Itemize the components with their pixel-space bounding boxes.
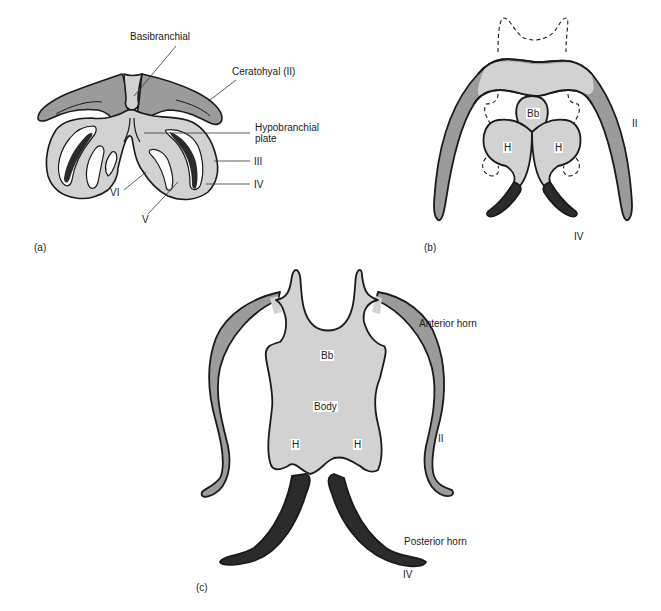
- tag-h-left-panel-c: H: [291, 439, 300, 450]
- label-arch-v: V: [142, 214, 149, 226]
- ceratobranchial-left: [487, 182, 521, 217]
- label-basibranchial: Basibranchial: [130, 31, 190, 43]
- anterior-horn-left: [202, 292, 280, 497]
- label-arch-vi: VI: [110, 187, 119, 199]
- label-arch-ii-panel-b: II: [632, 118, 638, 130]
- panel-c-illustration: [202, 270, 453, 566]
- posterior-horn-left: [220, 474, 310, 565]
- label-arch-iii: III: [254, 156, 262, 168]
- panel-b-illustration: [434, 18, 632, 220]
- hyoid-body: [266, 270, 386, 474]
- label-anterior-horn: Anterior horn: [419, 318, 477, 330]
- tag-bb-panel-b: Bb: [526, 108, 540, 119]
- label-ceratohyal: Ceratohyal (II): [232, 66, 295, 78]
- label-arch-iv-panel-b: IV: [574, 231, 583, 243]
- tag-body-panel-c: Body: [313, 401, 338, 412]
- hyoid-diagram-canvas: [0, 0, 661, 611]
- label-arch-iv-panel-c: IV: [403, 569, 412, 581]
- tag-bb-panel-c: Bb: [320, 350, 334, 361]
- tag-h-right-panel-c: H: [353, 439, 362, 450]
- panel-a-caption: (a): [34, 242, 46, 253]
- ceratobranchial-right: [543, 182, 577, 217]
- tag-h-left-panel-b: H: [503, 142, 512, 153]
- panel-b-caption: (b): [424, 242, 436, 253]
- label-hypobranchial-line1: Hypobranchial: [255, 122, 319, 134]
- panel-a-illustration: [38, 74, 222, 199]
- label-arch-ii-panel-c: II: [438, 433, 444, 445]
- tag-h-right-panel-b: H: [554, 142, 563, 153]
- posterior-horn-right: [329, 474, 427, 566]
- label-posterior-horn: Posterior horn: [404, 536, 467, 548]
- label-hypobranchial-line2: plate: [255, 133, 277, 145]
- panel-c-caption: (c): [196, 582, 208, 593]
- label-arch-iv: IV: [254, 179, 263, 191]
